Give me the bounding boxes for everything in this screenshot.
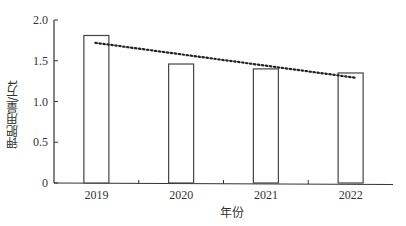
- bar-2019: [84, 35, 109, 183]
- y-tick-label: 1.5: [33, 54, 48, 68]
- x-tick-label: 2019: [84, 188, 108, 202]
- trend-line: [95, 43, 356, 78]
- chart-canvas: 00.51.01.52.02019202020212022: [0, 0, 406, 226]
- bar-2020: [169, 64, 194, 183]
- x-tick-label: 2020: [169, 188, 193, 202]
- y-tick-label: 1.0: [33, 95, 48, 109]
- y-tick-label: 2.0: [33, 13, 48, 27]
- y-tick-label: 0: [42, 176, 48, 190]
- x-tick-label: 2022: [339, 188, 363, 202]
- bar-2022: [338, 73, 363, 183]
- x-tick-label: 2021: [254, 188, 278, 202]
- y-axis-label: 钾肥用量/万t: [4, 60, 24, 170]
- x-axis-label: 年份: [220, 203, 244, 220]
- y-tick-label: 0.5: [33, 135, 48, 149]
- bar-chart: 00.51.01.52.02019202020212022 钾肥用量/万t 年份: [0, 0, 406, 226]
- bar-2021: [253, 69, 278, 183]
